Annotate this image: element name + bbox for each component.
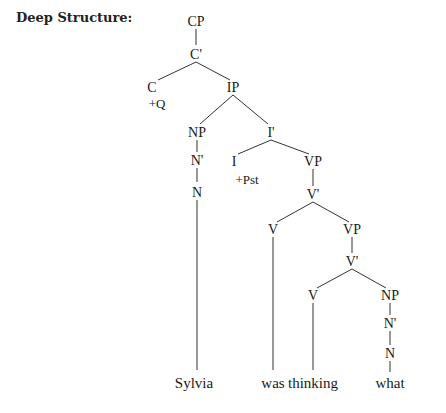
node-c-bar: C'	[190, 47, 202, 62]
feature-q: +Q	[149, 96, 166, 111]
feature-pst: +Pst	[235, 172, 259, 187]
node-np-object: NP	[381, 288, 399, 303]
node-v-bar-2: V'	[346, 254, 359, 269]
node-i-bar: I'	[267, 125, 274, 140]
syntax-tree: CP C' C +Q IP NP N' N I' I +Pst VP V' V …	[0, 0, 446, 413]
leaf-what: what	[375, 375, 405, 391]
tree-edges	[158, 29, 390, 372]
node-vp-2: VP	[343, 222, 361, 237]
node-i: I	[232, 154, 237, 169]
node-n-subject: N	[192, 185, 202, 200]
tree-leaves: Sylvia was thinking what	[175, 375, 406, 391]
node-ip: IP	[227, 80, 240, 95]
node-v-1: V	[268, 222, 278, 237]
node-n-bar-subject: N'	[191, 153, 204, 168]
node-n-object: N	[385, 346, 395, 361]
node-v-bar-1: V'	[307, 187, 320, 202]
leaf-thinking: thinking	[288, 375, 339, 391]
node-cp: CP	[187, 14, 204, 29]
node-v-2: V	[308, 288, 318, 303]
node-vp-1: VP	[304, 154, 322, 169]
node-np-subject: NP	[188, 125, 206, 140]
leaf-was: was	[261, 375, 284, 391]
leaf-sylvia: Sylvia	[175, 375, 214, 391]
node-c: C	[147, 80, 156, 95]
node-n-bar-object: N'	[384, 316, 397, 331]
